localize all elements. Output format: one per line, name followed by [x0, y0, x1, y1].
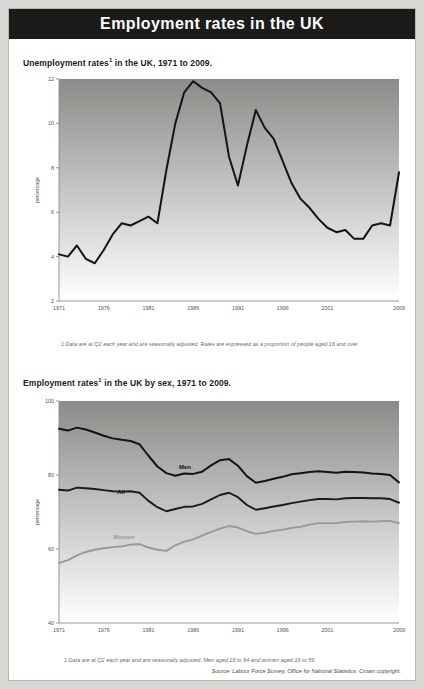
page-header: Employment rates in the UK	[9, 9, 415, 39]
y-axis-label: percentage	[34, 499, 40, 525]
chart1-title: Unemployment rates1 in the UK, 1971 to 2…	[23, 57, 212, 68]
x-tick-label: 1991	[232, 627, 244, 633]
chart2-title-rest: in the UK by sex, 1971 to 2009.	[102, 378, 231, 388]
x-tick-label: 1996	[277, 305, 289, 311]
series-label-all: All	[117, 489, 125, 495]
y-tick-label: 4	[51, 254, 54, 260]
series-label-women: Women	[113, 534, 135, 540]
x-tick-label: 1976	[98, 627, 110, 633]
chart1-title-rest: in the UK, 1971 to 2009.	[112, 58, 212, 68]
x-tick-label: 1976	[98, 305, 110, 311]
y-tick-label: 8	[51, 165, 54, 171]
y-tick-label: 6	[51, 209, 54, 215]
x-tick-label: 2001	[321, 627, 333, 633]
chart2-title: Employment rates1 in the UK by sex, 1971…	[23, 377, 231, 388]
document-sheet: Employment rates in the UK Unemployment …	[8, 8, 416, 681]
x-tick-label: 1981	[142, 305, 154, 311]
page-title: Employment rates in the UK	[100, 15, 324, 33]
y-tick-label: 12	[48, 76, 54, 82]
chart1-title-main: Unemployment rates	[23, 58, 109, 68]
x-tick-label: 2009	[393, 305, 405, 311]
x-tick-label: 1986	[187, 305, 199, 311]
y-tick-label: 60	[48, 546, 54, 552]
page-root: Employment rates in the UK Unemployment …	[0, 0, 424, 689]
y-tick-label: 2	[51, 298, 54, 304]
x-tick-label: 1986	[187, 627, 199, 633]
x-tick-label: 2009	[393, 627, 405, 633]
series-label-men: Men	[179, 464, 191, 470]
chart2-title-main: Employment rates	[23, 378, 98, 388]
y-tick-label: 10	[48, 120, 54, 126]
chart2-footnote: 1 Data are at Q2 each year and are seaso…	[64, 657, 316, 663]
y-tick-label: 40	[48, 620, 54, 626]
y-tick-label: 80	[48, 472, 54, 478]
y-tick-label: 100	[45, 398, 54, 404]
x-tick-label: 2001	[321, 305, 333, 311]
x-tick-label: 1971	[53, 305, 65, 311]
chart1-plot: 2468101219711976198119861991199620012009…	[17, 71, 409, 321]
chart1-footnote: 1 Data are at Q2 each year and are seaso…	[61, 341, 359, 347]
x-tick-label: 1971	[53, 627, 65, 633]
source-note: Source: Labour Force Survey, Office for …	[211, 668, 401, 674]
x-tick-label: 1991	[232, 305, 244, 311]
y-axis-label: percentage	[34, 177, 40, 203]
x-tick-label: 1981	[142, 627, 154, 633]
x-tick-label: 1996	[277, 627, 289, 633]
chart2-plot: 4060801001971197619811986199119962001200…	[17, 391, 409, 643]
